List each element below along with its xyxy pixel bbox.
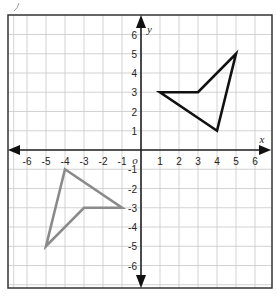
x-axis-right-arrow-icon (259, 145, 271, 155)
y-tick-label: -3 (128, 203, 137, 214)
x-tick-label: 3 (195, 156, 201, 167)
x-axis-label: x (259, 133, 265, 145)
x-tick-label: -2 (99, 156, 108, 167)
corner-mark (14, 3, 19, 11)
x-tick-label: 4 (214, 156, 220, 167)
x-tick-label: -6 (23, 156, 32, 167)
x-tick-label: 2 (176, 156, 182, 167)
y-tick-label: -4 (128, 222, 137, 233)
x-tick-label: -3 (80, 156, 89, 167)
x-tick-label: -1 (118, 156, 127, 167)
axes (8, 15, 271, 288)
x-tick-label: 6 (252, 156, 258, 167)
y-tick-label: 5 (131, 49, 137, 60)
y-tick-label: 2 (131, 107, 137, 118)
y-axis-down-arrow-icon (136, 275, 146, 288)
x-tick-label: -5 (42, 156, 51, 167)
x-tick-label: 5 (233, 156, 239, 167)
x-tick-label: 1 (157, 156, 163, 167)
y-tick-label: -2 (128, 184, 137, 195)
y-axis-up-arrow-icon (136, 15, 146, 28)
y-tick-label: 6 (131, 30, 137, 41)
origin-label: o (132, 154, 138, 166)
y-tick-label: 3 (131, 87, 137, 98)
coordinate-plane: -6-5-4-3-2-1123456654321-1-2-3-4-5-6xyo (0, 0, 276, 296)
y-axis-label: y (146, 23, 152, 35)
y-tick-label: -5 (128, 241, 137, 252)
y-tick-label: -6 (128, 261, 137, 272)
y-tick-label: 1 (131, 126, 137, 137)
x-tick-label: -4 (61, 156, 70, 167)
y-tick-label: 4 (131, 68, 137, 79)
